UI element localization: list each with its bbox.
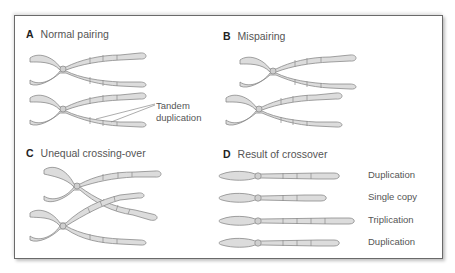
panel-b-pair-1 [240, 55, 356, 89]
result-chromosome-2 [219, 193, 326, 202]
result-chromosome-4 [219, 238, 339, 247]
panel-b-pair-2 [226, 93, 342, 127]
panel-c-crossover [30, 167, 161, 245]
result-chromosome-3 [219, 216, 354, 225]
panel-a-pair-1 [30, 53, 146, 87]
panel-a-pair-2 [30, 93, 146, 127]
chromosome-diagram: .c { fill:#dcdcdc; stroke:#8a8a8a; strok… [0, 0, 455, 273]
result-chromosome-1 [219, 171, 339, 180]
